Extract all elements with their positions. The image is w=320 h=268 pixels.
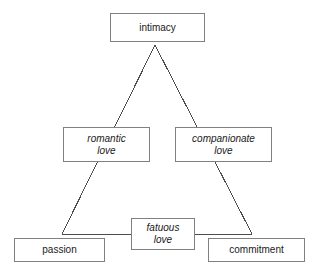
node-intimacy-label: intimacy <box>139 22 176 34</box>
node-romantic-love-label: romantic love <box>87 133 125 157</box>
node-passion[interactable]: passion <box>14 238 105 262</box>
node-fatuous-love[interactable]: fatuous love <box>131 218 195 250</box>
node-commitment-label: commitment <box>229 244 283 256</box>
node-companionate-love-label: companionate love <box>192 133 255 157</box>
node-commitment[interactable]: commitment <box>208 238 305 262</box>
node-passion-label: passion <box>42 244 76 256</box>
node-fatuous-love-label: fatuous love <box>147 222 180 246</box>
node-romantic-love[interactable]: romantic love <box>63 127 150 162</box>
node-intimacy[interactable]: intimacy <box>110 13 205 42</box>
love-triangle-diagram: intimacy romantic love companionate love… <box>0 0 320 268</box>
node-companionate-love[interactable]: companionate love <box>175 127 272 162</box>
